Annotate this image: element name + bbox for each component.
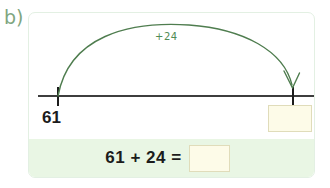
number-line-answer-box[interactable] — [268, 105, 312, 132]
worksheet-question: b) +24 61 61 + 24 = — [0, 0, 330, 188]
part-label: b) — [4, 8, 23, 27]
number-line-area: +24 61 — [29, 13, 314, 141]
jump-label: +24 — [155, 31, 178, 42]
arrow-head-icon — [284, 71, 300, 88]
equation-row: 61 + 24 = — [105, 145, 229, 172]
equation-answer-box[interactable] — [189, 145, 230, 172]
question-card: +24 61 61 + 24 = — [28, 12, 315, 178]
equation-expression: 61 + 24 = — [105, 148, 181, 168]
equation-strip: 61 + 24 = — [29, 139, 314, 177]
start-number-label: 61 — [42, 108, 61, 128]
